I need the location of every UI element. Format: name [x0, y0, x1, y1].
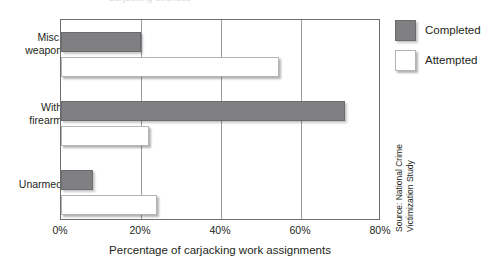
bar-with-firearm-completed[interactable]: [61, 101, 345, 121]
bar-misc-weapon-attempted[interactable]: [61, 57, 279, 77]
bar-unarmed-attempted[interactable]: [61, 195, 157, 215]
bar-unarmed-completed[interactable]: [61, 170, 93, 190]
chart-figure: Carjacking offenses Misc. weapon With fi…: [0, 0, 498, 277]
plot-area: [60, 19, 380, 220]
clipped-chart-title: Carjacking offenses: [108, 0, 338, 3]
xtick-label-60: 60%: [280, 224, 320, 236]
legend-item-attempted[interactable]: Attempted: [395, 47, 495, 73]
x-axis-title: Percentage of carjacking work assignment…: [60, 243, 380, 258]
xtick-label-20: 20%: [120, 224, 160, 236]
category-label-unarmed: Unarmed: [19, 178, 62, 191]
legend-label-completed: Completed: [425, 24, 481, 36]
category-label-with-firearm: With firearm: [29, 101, 62, 126]
xtick-label-40: 40%: [200, 224, 240, 236]
source-note-line-1: Source: National Crime: [394, 144, 404, 232]
xtick-label-0: 0%: [40, 224, 80, 236]
legend-swatch-attempted-icon: [395, 50, 416, 71]
source-note: Source: National Crime Victimization Stu…: [384, 120, 494, 146]
source-note-line-2: Victimization Study: [405, 160, 415, 232]
bar-with-firearm-attempted[interactable]: [61, 126, 149, 146]
legend-swatch-completed-icon: [395, 20, 416, 41]
chart-legend: Completed Attempted: [395, 17, 495, 77]
bar-misc-weapon-completed[interactable]: [61, 32, 141, 52]
legend-item-completed[interactable]: Completed: [395, 17, 495, 43]
legend-label-attempted: Attempted: [425, 54, 477, 66]
category-label-misc-weapon: Misc. weapon: [25, 31, 62, 56]
